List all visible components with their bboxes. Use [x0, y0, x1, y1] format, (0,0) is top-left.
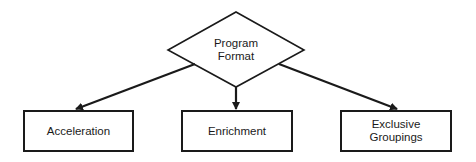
node-label-enrichment: Enrichment — [208, 125, 266, 138]
node-acceleration: Acceleration — [23, 110, 134, 152]
edge-to-exclusive-groupings — [279, 64, 397, 109]
decision-text: Program Format — [214, 37, 258, 63]
node-label-exclusive-groupings: Exclusive Groupings — [369, 118, 422, 144]
node-exclusive-groupings: Exclusive Groupings — [340, 110, 452, 152]
decision-label-program-format: Program Format — [196, 33, 276, 67]
node-enrichment: Enrichment — [181, 110, 293, 152]
node-label-acceleration: Acceleration — [47, 125, 110, 138]
edge-to-acceleration — [76, 64, 195, 109]
